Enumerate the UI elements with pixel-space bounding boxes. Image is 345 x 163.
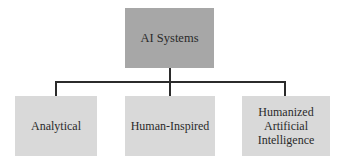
root-node-label: AI Systems <box>141 31 199 45</box>
child-node-analytical: Analytical <box>15 96 97 156</box>
root-node: AI Systems <box>125 8 214 68</box>
connector-horizontal-bar <box>55 81 286 83</box>
child-node-label: Humanized Artificial Intelligence <box>246 105 326 147</box>
child-node-label: Human-Inspired <box>131 119 210 133</box>
child-node-label: Analytical <box>31 119 81 133</box>
connector-left-drop <box>55 81 57 96</box>
connector-right-drop <box>284 81 286 96</box>
child-node-human-inspired: Human-Inspired <box>125 96 215 156</box>
child-node-humanized-ai: Humanized Artificial Intelligence <box>242 96 330 156</box>
